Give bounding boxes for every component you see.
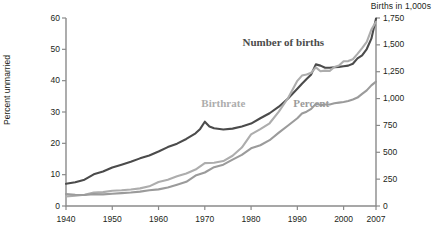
x-tick-label: 1970 (190, 214, 220, 224)
x-tick-label: 2007 (361, 214, 391, 224)
y-tick-label-right: 1,250 (383, 66, 417, 76)
y-tick-label-left: 50 (34, 44, 60, 54)
y-tick-label-left: 0 (34, 201, 60, 211)
y-tick-label-left: 30 (34, 107, 60, 117)
y-tick-label-left: 60 (34, 13, 60, 23)
y-tick-label-right: 1,500 (383, 39, 417, 49)
x-tick-label: 1950 (97, 214, 127, 224)
y-tick-label-right: 500 (383, 147, 417, 157)
series-annotation: Birthrate (201, 97, 245, 109)
x-tick-label: 1940 (51, 214, 81, 224)
y-tick-label-right: 1,000 (383, 93, 417, 103)
y-tick-label-right: 0 (383, 201, 417, 211)
x-tick-label: 2000 (329, 214, 359, 224)
chart-figure: Births in 1,000s Percent unmarried 01020… (0, 0, 435, 244)
y-tick-label-right: 750 (383, 120, 417, 130)
plot-area (0, 0, 435, 244)
y-tick-label-left: 40 (34, 75, 60, 85)
x-tick-label: 1960 (144, 214, 174, 224)
axis-ticks (62, 18, 380, 210)
x-tick-label: 1980 (236, 214, 266, 224)
series-annotation: Percent (293, 97, 329, 109)
axis-lines (66, 18, 376, 206)
y-tick-label-left: 10 (34, 169, 60, 179)
x-tick-label: 1990 (282, 214, 312, 224)
series-line (66, 22, 376, 197)
series-annotation: Number of births (242, 36, 324, 48)
y-tick-label-right: 250 (383, 174, 417, 184)
y-tick-label-left: 20 (34, 138, 60, 148)
y-tick-label-right: 1,750 (383, 13, 417, 23)
